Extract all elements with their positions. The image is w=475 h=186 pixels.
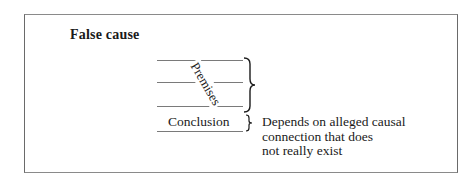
premises-brace-icon — [242, 56, 258, 114]
explanation-text: Depends on alleged causal connection tha… — [262, 115, 406, 159]
explanation-line-1: Depends on alleged causal — [262, 115, 406, 130]
conclusion-line — [157, 131, 243, 132]
conclusion-brace-icon — [244, 114, 254, 132]
conclusion-label: Conclusion — [168, 114, 230, 130]
explanation-line-3: not really exist — [262, 144, 406, 159]
fallacy-title: False cause — [70, 27, 139, 43]
premise-line-3 — [157, 106, 243, 107]
explanation-line-2: connection that does — [262, 130, 406, 145]
